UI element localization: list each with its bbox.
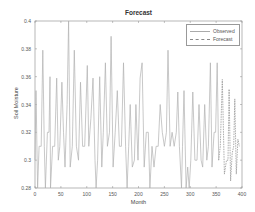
y-tick-label: 0.4 <box>0 18 31 24</box>
x-tick-label: 100 <box>77 191 97 197</box>
x-tick-label: 250 <box>154 191 174 197</box>
y-tick-label: 0.34 <box>0 102 31 108</box>
y-tick-label: 0.36 <box>0 74 31 80</box>
y-tick-label: 0.38 <box>0 46 31 52</box>
x-tick-label: 150 <box>103 191 123 197</box>
x-tick-label: 350 <box>206 191 226 197</box>
legend-label-forecast: Forecast <box>213 36 232 42</box>
legend-line-observed-icon <box>190 31 210 32</box>
chart-title: Forecast <box>35 9 242 16</box>
legend-label-observed: Observed <box>213 28 235 34</box>
x-tick-label: 200 <box>129 191 149 197</box>
legend-line-forecast-icon <box>190 39 210 40</box>
y-tick-label: 0.3 <box>0 157 31 163</box>
legend-item-observed: Observed <box>190 27 235 35</box>
x-tick-label: 50 <box>51 191 71 197</box>
x-tick-label: 0 <box>25 191 45 197</box>
y-tick-label: 0.32 <box>0 129 31 135</box>
x-tick-label: 400 <box>232 191 252 197</box>
x-axis-label: Month <box>35 199 242 205</box>
x-tick-label: 300 <box>180 191 200 197</box>
legend-item-forecast: Forecast <box>190 35 232 43</box>
legend: Observed Forecast <box>186 24 240 46</box>
